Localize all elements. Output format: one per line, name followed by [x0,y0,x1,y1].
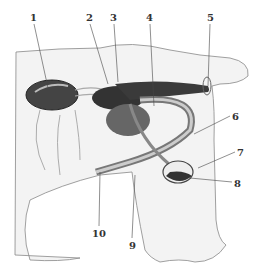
label-10: 10 [92,229,106,239]
label-7: 7 [237,148,244,158]
body-outline [15,44,248,262]
label-1: 1 [30,13,37,23]
label-2: 2 [86,13,93,23]
illustration [0,0,265,276]
label-5: 5 [207,13,214,23]
anatomy-diagram: 1 2 3 4 5 6 7 8 9 10 [0,0,265,276]
organ-sac [106,104,150,136]
label-4: 4 [146,13,153,23]
label-9: 9 [129,241,136,251]
label-8: 8 [234,179,241,189]
label-3: 3 [110,13,117,23]
label-6: 6 [232,112,239,122]
